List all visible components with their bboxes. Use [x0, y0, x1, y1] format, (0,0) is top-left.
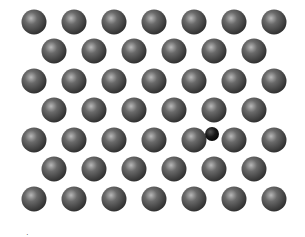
host-atom — [262, 128, 287, 153]
host-atom — [22, 128, 47, 153]
host-atom — [42, 39, 67, 64]
host-atom — [142, 187, 167, 212]
host-atom — [22, 187, 47, 212]
host-atom — [222, 10, 247, 35]
host-atom — [162, 98, 187, 123]
host-atom — [222, 128, 247, 153]
host-atom — [182, 187, 207, 212]
host-atom — [262, 69, 287, 94]
host-atom — [162, 157, 187, 182]
host-atom — [82, 39, 107, 64]
interstitial-atom — [205, 127, 219, 141]
host-atom — [122, 157, 147, 182]
host-atom — [62, 128, 87, 153]
crystal-lattice-diagram: · — [0, 0, 305, 237]
host-atom — [42, 98, 67, 123]
host-atom — [82, 98, 107, 123]
host-atom — [182, 10, 207, 35]
host-atom — [182, 69, 207, 94]
host-atom — [202, 39, 227, 64]
host-atom — [102, 10, 127, 35]
host-atom — [42, 157, 67, 182]
host-atom — [182, 128, 207, 153]
host-atom — [102, 187, 127, 212]
host-atom — [262, 187, 287, 212]
interstitial-atom-group — [205, 127, 219, 141]
host-atom — [22, 10, 47, 35]
host-atom — [62, 10, 87, 35]
host-atom — [82, 157, 107, 182]
host-atom — [262, 10, 287, 35]
host-atom — [162, 39, 187, 64]
host-atom — [222, 69, 247, 94]
host-atom — [222, 187, 247, 212]
host-atom — [122, 39, 147, 64]
host-atom — [22, 69, 47, 94]
host-atoms-group — [22, 10, 287, 212]
host-atom — [202, 98, 227, 123]
host-atom — [242, 98, 267, 123]
host-atom — [242, 157, 267, 182]
host-atom — [142, 69, 167, 94]
host-atom — [62, 187, 87, 212]
host-atom — [142, 128, 167, 153]
host-atom — [102, 69, 127, 94]
host-atom — [202, 157, 227, 182]
diagram-label: · — [26, 230, 29, 237]
host-atom — [122, 98, 147, 123]
host-atom — [102, 128, 127, 153]
host-atom — [242, 39, 267, 64]
host-atom — [142, 10, 167, 35]
host-atom — [62, 69, 87, 94]
